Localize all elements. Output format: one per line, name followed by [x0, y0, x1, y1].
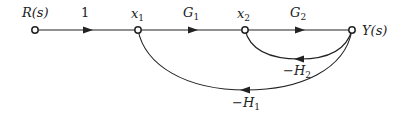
label-neg-h1: −H1	[232, 95, 260, 112]
label-g2: G2	[290, 5, 306, 22]
signal-flow-graph: R(s) 1 x1 G1 x2 G2 Y(s) −H2 −H1	[0, 0, 407, 116]
label-g1: G1	[183, 5, 199, 22]
label-neg-h2: −H2	[283, 63, 311, 80]
label-x2: x2	[237, 6, 250, 23]
label-y: Y(s)	[362, 23, 387, 38]
label-x1: x1	[131, 6, 144, 23]
node-x2	[242, 27, 248, 33]
node-x1	[135, 27, 141, 33]
arrow-right-icon	[83, 27, 93, 34]
arrow-right-icon	[295, 27, 305, 34]
edge-y-x2-feedback	[245, 30, 352, 59]
arrow-right-icon	[188, 27, 198, 34]
edge-y-x1-feedback	[138, 30, 352, 90]
node-y	[349, 27, 355, 33]
label-r: R(s)	[21, 5, 49, 20]
arrow-left-icon	[294, 56, 304, 63]
arrow-left-icon	[240, 87, 250, 94]
label-gain-1: 1	[81, 5, 89, 20]
node-r	[32, 27, 38, 33]
